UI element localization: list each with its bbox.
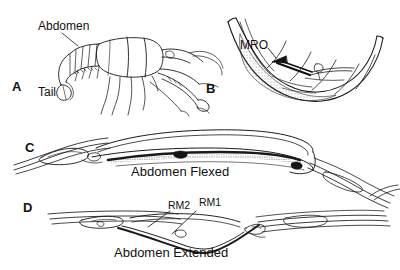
panel-letter-a: A (12, 79, 22, 94)
abdomen-flexed-caption: Abdomen Flexed (131, 164, 229, 179)
figure-panel-group: A Abdomen Tail B MRO C Abdomen Flexed D … (0, 0, 400, 270)
abdomen-label: Abdomen (38, 19, 89, 33)
rm2-label: RM2 (168, 199, 190, 211)
tail-label: Tail (38, 85, 56, 99)
mro-label: MRO (240, 38, 268, 52)
panel-letter-b: B (206, 81, 216, 96)
panel-a-crayfish-drawing (57, 33, 223, 116)
panel-d-extended-drawing (48, 185, 400, 253)
panel-letter-d: D (23, 200, 33, 215)
abdomen-extended-caption: Abdomen Extended (114, 245, 228, 260)
rm1-label: RM1 (199, 196, 221, 208)
figure-artwork (0, 0, 400, 270)
panel-letter-c: C (25, 140, 35, 155)
panel-b-abdomen-cutaway (228, 18, 383, 101)
